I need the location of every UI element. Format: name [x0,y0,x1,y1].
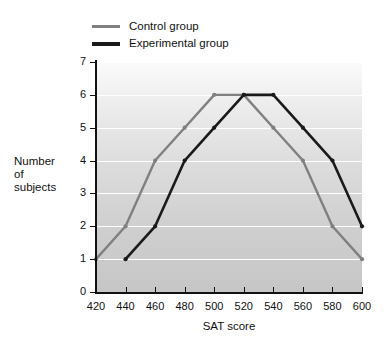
legend-label-experimental: Experimental group [129,38,229,50]
x-tick-mark [214,287,215,292]
y-axis-title-line-1: Number [14,155,86,168]
x-tick-label: 600 [345,300,379,312]
y-tick-mark [90,292,95,293]
chart-root: Control group Experimental group 0123456… [0,0,392,344]
y-tick-mark [90,95,95,96]
data-point-experimental [212,126,216,130]
series-line-control [96,95,362,259]
legend-item-control: Control group [92,18,229,35]
y-tick-mark [90,193,95,194]
data-point-control [301,158,305,162]
x-tick-mark [332,287,333,292]
data-point-control [123,224,127,228]
data-point-control [183,126,187,130]
y-tick-label: 6 [64,88,86,100]
y-axis-title: Number of subjects [14,155,86,194]
legend-swatch-control-icon [92,25,120,28]
y-tick-label: 5 [64,121,86,133]
y-tick-label: 1 [64,252,86,264]
data-point-experimental [153,224,157,228]
x-tick-mark [96,287,97,292]
legend-label-control: Control group [129,21,199,33]
y-axis-line [95,60,97,294]
y-tick-label: 7 [64,55,86,67]
data-point-experimental [242,93,246,97]
legend-swatch-experimental-icon [92,42,120,46]
x-tick-mark [362,287,363,292]
legend-item-experimental: Experimental group [92,35,229,52]
x-tick-mark [244,287,245,292]
data-point-experimental [301,126,305,130]
series-line-experimental [126,95,362,259]
chart-legend: Control group Experimental group [92,18,229,52]
y-tick-label: 2 [64,219,86,231]
series-layer [96,62,362,292]
data-point-experimental [271,93,275,97]
y-tick-label: 0 [64,285,86,297]
data-point-experimental [360,224,364,228]
data-point-experimental [183,158,187,162]
y-tick-mark [90,161,95,162]
y-axis-title-line-2: of [14,168,86,181]
data-point-control [330,224,334,228]
data-point-control [271,126,275,130]
data-point-experimental [330,158,334,162]
y-tick-mark [90,226,95,227]
data-point-control [153,158,157,162]
plot-area [96,62,362,292]
x-tick-mark [303,287,304,292]
x-tick-mark [155,287,156,292]
data-point-control [212,93,216,97]
y-tick-mark [90,62,95,63]
x-tick-mark [185,287,186,292]
x-tick-mark [126,287,127,292]
y-tick-mark [90,259,95,260]
y-axis-title-line-3: subjects [14,181,86,194]
data-point-experimental [123,257,127,261]
x-axis-title: SAT score [96,320,362,332]
x-axis-line [95,292,363,294]
data-point-control [360,257,364,261]
x-tick-mark [273,287,274,292]
y-tick-mark [90,128,95,129]
